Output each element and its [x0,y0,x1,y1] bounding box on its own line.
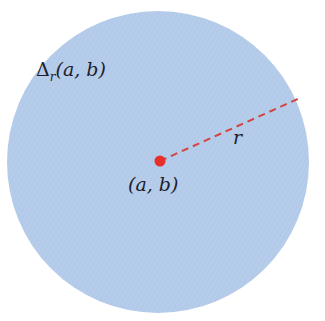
disk-diagram [0,0,325,321]
radius-label: r [233,126,242,148]
disk-center-args: (a, b) [55,58,105,80]
delta-symbol: Δ [36,58,50,80]
disk-name-label: Δr(a, b) [36,58,106,84]
center-point [155,156,166,167]
center-point-label: (a, b) [128,173,178,195]
